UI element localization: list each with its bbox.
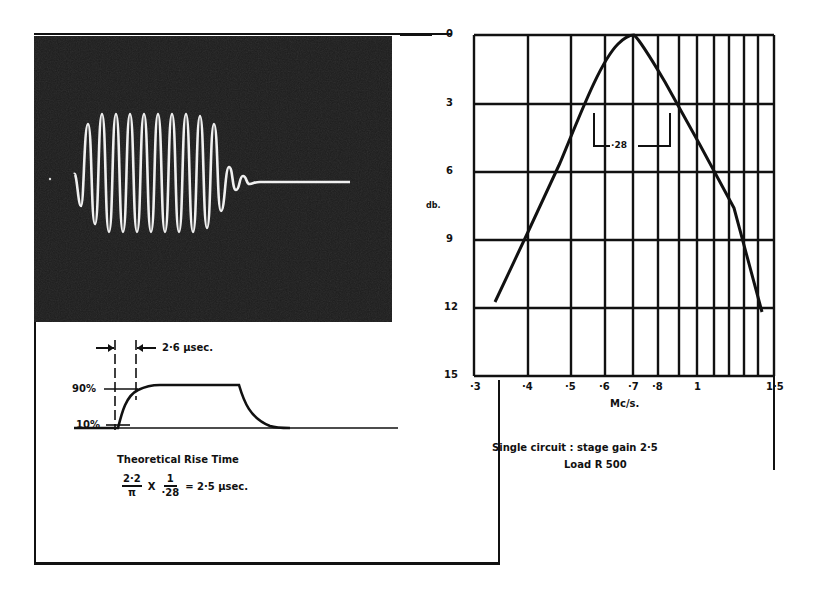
level-90-label: 90% (72, 383, 96, 394)
caption-line-1: Single circuit : stage gain 2·5 (492, 442, 658, 453)
x-tick-15: 1·5 (766, 381, 784, 392)
y-tick-12: 12 (444, 301, 458, 312)
y-tick-3: 3 (446, 97, 453, 108)
y-tick-9: 9 (446, 233, 453, 244)
rise-time-diagram: 2·6 μsec. 90% 10% Theoretical Rise Time … (34, 322, 398, 562)
rise-time-formula: 2·2 π X 1 ·28 = 2·5 μsec. (122, 469, 248, 503)
grid-lines (474, 35, 774, 376)
level-10-label: 10% (76, 419, 100, 430)
frame-top-line (34, 33, 452, 35)
y-tick-0: 0 (446, 28, 453, 39)
bandwidth-label: ·28 (611, 140, 627, 150)
x-tick-04: ·4 (522, 381, 533, 392)
fraction-2-2-over-pi: 2·2 π (122, 473, 142, 499)
y-tick-15: 15 (444, 369, 458, 380)
x-tick-06: ·6 (599, 381, 610, 392)
x-tick-1: 1 (694, 381, 701, 392)
x-axis-label: Mc/s. (610, 398, 639, 409)
y-tick-6: 6 (446, 165, 453, 176)
caption-line-2: Load R 500 (564, 459, 627, 470)
response-curve-plot (400, 0, 813, 470)
oscilloscope-photo (34, 36, 392, 322)
fraction-1-over-028: 1 ·28 (161, 473, 179, 499)
y-axis-label: db. (426, 201, 441, 210)
x-tick-08: ·8 (652, 381, 663, 392)
rise-time-title: Theoretical Rise Time (117, 454, 239, 465)
x-tick-03: ·3 (470, 381, 481, 392)
tone-burst-trace (34, 36, 392, 322)
x-tick-05: ·5 (565, 381, 576, 392)
frame-bottom-line (34, 562, 500, 565)
attenuation-chart: 0 3 6 9 12 15 db. ·3 ·4 ·5 ·6 ·7 ·8 1 1·… (400, 0, 813, 470)
response-curve (495, 35, 762, 312)
x-tick-07: ·7 (628, 381, 639, 392)
rise-interval-label: 2·6 μsec. (162, 342, 213, 353)
